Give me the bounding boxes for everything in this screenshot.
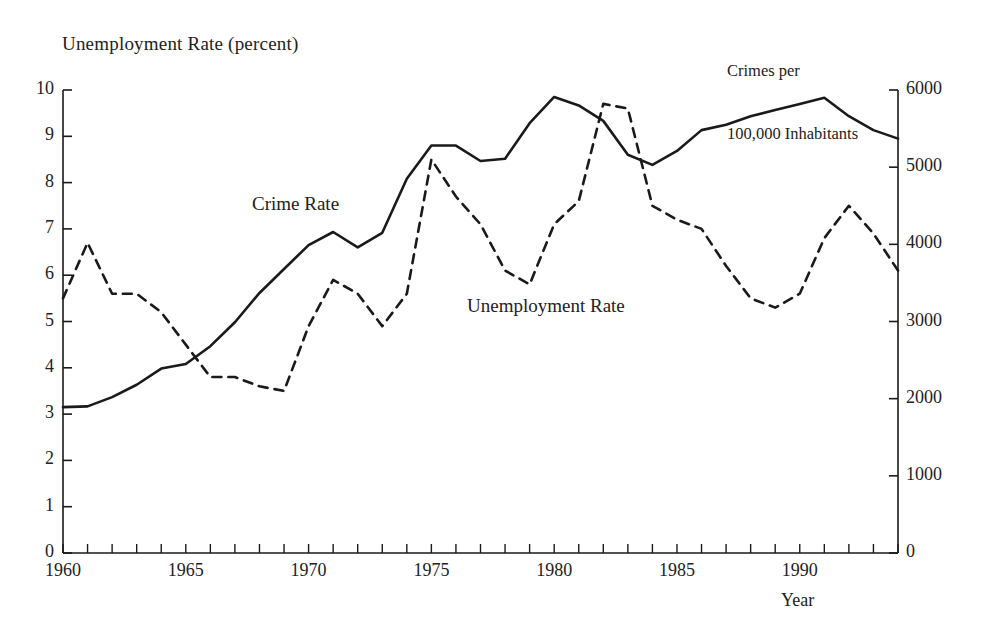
right-tick-label: 3000 bbox=[906, 310, 966, 331]
x-tick-label: 1980 bbox=[524, 560, 584, 581]
left-tick-label: 5 bbox=[20, 310, 54, 331]
x-tick-label: 1960 bbox=[33, 560, 93, 581]
left-tick-label: 3 bbox=[20, 402, 54, 423]
axes bbox=[63, 90, 898, 553]
right-tick-label: 6000 bbox=[906, 78, 966, 99]
left-tick-label: 4 bbox=[20, 356, 54, 377]
left-tick-label: 1 bbox=[20, 495, 54, 516]
right-tick-label: 4000 bbox=[906, 232, 966, 253]
left-tick-label: 8 bbox=[20, 171, 54, 192]
left-axis-ticks bbox=[63, 90, 72, 553]
x-tick-label: 1965 bbox=[156, 560, 216, 581]
right-tick-label: 5000 bbox=[906, 155, 966, 176]
left-tick-label: 7 bbox=[20, 217, 54, 238]
plot-area bbox=[0, 0, 988, 628]
chart-figure: Unemployment Rate (percent) Crimes per 1… bbox=[0, 0, 988, 628]
left-tick-label: 10 bbox=[20, 78, 54, 99]
left-tick-label: 2 bbox=[20, 448, 54, 469]
series-line-crime-rate bbox=[63, 97, 898, 407]
right-tick-label: 1000 bbox=[906, 464, 966, 485]
right-tick-label: 2000 bbox=[906, 387, 966, 408]
x-tick-label: 1970 bbox=[279, 560, 339, 581]
x-axis-ticks bbox=[63, 544, 898, 553]
x-tick-label: 1975 bbox=[401, 560, 461, 581]
left-tick-label: 6 bbox=[20, 263, 54, 284]
right-axis-ticks bbox=[889, 90, 898, 553]
series-line-unemployment-rate bbox=[63, 104, 898, 391]
right-tick-label: 0 bbox=[906, 541, 966, 562]
left-tick-label: 9 bbox=[20, 124, 54, 145]
left-tick-label: 0 bbox=[20, 541, 54, 562]
x-tick-label: 1985 bbox=[647, 560, 707, 581]
x-tick-label: 1990 bbox=[770, 560, 830, 581]
